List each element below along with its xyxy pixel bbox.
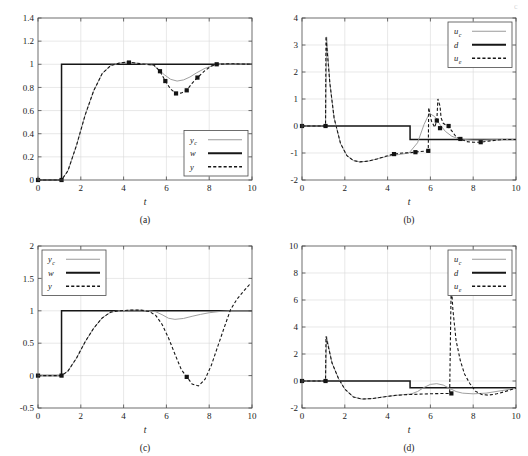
data-point-marker — [449, 391, 453, 395]
x-tick-label: 2 — [343, 183, 348, 193]
x-tick-label: 4 — [121, 183, 126, 193]
panel-c: 0246810-0.500.511.52t(c)ycwy — [0, 228, 264, 456]
x-tick-label: 6 — [164, 183, 169, 193]
data-point-marker — [163, 79, 167, 83]
data-point-marker — [426, 149, 430, 153]
data-point-marker — [413, 150, 417, 154]
panel-d: 0246810-20246810t(d)ucdue — [264, 228, 528, 456]
x-tick-label: 10 — [248, 183, 258, 193]
y-tick-label: 1.2 — [23, 36, 34, 46]
series-y_c — [38, 310, 252, 375]
legend-label: w — [190, 148, 196, 158]
panel-caption: (a) — [140, 215, 151, 226]
data-point-marker — [195, 75, 199, 79]
x-tick-label: 8 — [207, 183, 212, 193]
x-tick-label: 6 — [428, 411, 433, 421]
data-point-marker — [435, 119, 439, 123]
y-tick-label: 0 — [30, 175, 35, 185]
chart-b: 0246810-2-101234t(b)ucdue — [264, 0, 528, 228]
legend-a: ycwy — [184, 131, 248, 177]
legend-label: y — [189, 162, 194, 172]
y-tick-label: 2 — [294, 67, 299, 77]
x-tick-label: 4 — [385, 183, 390, 193]
panel-caption: (d) — [403, 443, 414, 454]
x-tick-label: 2 — [79, 183, 84, 193]
y-tick-label: 4 — [294, 13, 299, 23]
figure-root: c 024681000.20.40.60.811.21.4t(a)ycwy 02… — [0, 0, 528, 456]
x-tick-label: 6 — [164, 411, 169, 421]
y-tick-label: 1.5 — [23, 274, 35, 284]
x-tick-label: 8 — [471, 411, 476, 421]
data-point-marker — [458, 137, 462, 141]
y-tick-label: -2 — [291, 403, 299, 413]
x-tick-label: 6 — [428, 183, 433, 193]
x-tick-label: 4 — [385, 411, 390, 421]
x-tick-label: 10 — [248, 411, 258, 421]
data-point-marker — [392, 152, 396, 156]
x-tick-label: 10 — [512, 411, 522, 421]
data-point-marker — [158, 69, 162, 73]
y-tick-label: 0.8 — [23, 83, 35, 93]
y-tick-label: 0.6 — [23, 106, 35, 116]
x-axis-label: t — [144, 425, 147, 435]
y-tick-label: -1 — [291, 148, 299, 158]
data-point-marker — [446, 124, 450, 128]
y-tick-label: -2 — [291, 175, 299, 185]
x-axis-label: t — [144, 197, 147, 207]
x-axis-label: t — [408, 197, 411, 207]
data-point-marker — [59, 374, 63, 378]
data-point-marker — [479, 140, 483, 144]
x-tick-label: 10 — [512, 183, 522, 193]
legend-label: y — [47, 281, 52, 291]
data-point-marker — [185, 88, 189, 92]
panel-a: 024681000.20.40.60.811.21.4t(a)ycwy — [0, 0, 264, 228]
y-tick-label: 1 — [294, 94, 299, 104]
legend-c: ycwy — [42, 250, 106, 296]
y-tick-label: 0 — [294, 121, 299, 131]
x-tick-label: 8 — [471, 183, 476, 193]
y-tick-label: 10 — [289, 241, 299, 251]
chart-c: 0246810-0.500.511.52t(c)ycwy — [0, 228, 264, 456]
series-d — [302, 126, 516, 140]
chart-a: 024681000.20.40.60.811.21.4t(a)ycwy — [0, 0, 264, 228]
data-point-marker — [127, 60, 131, 64]
series-y — [38, 283, 251, 386]
y-tick-label: 0.5 — [23, 338, 35, 348]
data-point-marker — [438, 126, 442, 130]
y-tick-label: 2 — [294, 349, 299, 359]
x-tick-label: 2 — [79, 411, 84, 421]
x-tick-label: 8 — [207, 411, 212, 421]
y-tick-label: 0.4 — [23, 129, 35, 139]
y-tick-label: 4 — [294, 322, 299, 332]
x-tick-label: 0 — [300, 183, 305, 193]
series-d — [302, 381, 516, 388]
panel-caption: (c) — [140, 443, 151, 454]
x-tick-label: 4 — [121, 411, 126, 421]
legend-label: w — [48, 268, 54, 278]
x-axis-label: t — [408, 425, 411, 435]
chart-d: 0246810-20246810t(d)ucdue — [264, 228, 528, 456]
y-tick-label: 8 — [294, 268, 299, 278]
y-tick-label: 0 — [30, 371, 35, 381]
x-tick-label: 0 — [36, 183, 41, 193]
series-group — [38, 283, 252, 386]
panel-b: 0246810-2-101234t(b)ucdue — [264, 0, 528, 228]
data-point-marker — [215, 62, 219, 66]
y-tick-label: 0 — [294, 376, 299, 386]
y-tick-label: 2 — [30, 241, 35, 251]
data-point-marker — [185, 375, 189, 379]
x-tick-label: 0 — [300, 411, 305, 421]
y-tick-label: 1 — [30, 306, 35, 316]
y-tick-label: 3 — [294, 40, 299, 50]
x-tick-label: 0 — [36, 411, 41, 421]
legend-b: ucdue — [448, 22, 512, 68]
panel-caption: (b) — [403, 215, 414, 226]
y-tick-label: 6 — [294, 295, 299, 305]
y-tick-label: -0.5 — [20, 403, 35, 413]
x-tick-label: 2 — [343, 411, 348, 421]
y-tick-label: 1 — [30, 59, 35, 69]
legend-d: ucdue — [448, 250, 512, 296]
data-point-marker — [323, 124, 327, 128]
y-tick-label: 0.2 — [23, 152, 34, 162]
y-tick-label: 1.4 — [23, 13, 35, 23]
